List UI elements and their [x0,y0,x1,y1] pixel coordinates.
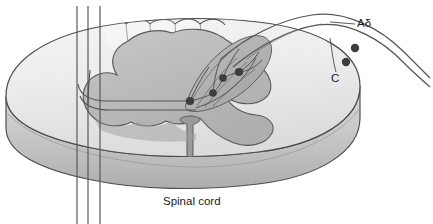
synapse-dot [186,97,194,105]
synapse-dot [209,89,217,97]
synapse-dot [235,68,243,76]
spinal-cord-label: Spinal cord [163,196,221,208]
c-fiber-label: C [331,73,339,85]
spinal-cord-diagram [0,0,433,224]
a-delta-leader [330,22,355,24]
peripheral-node-dot [351,44,359,52]
synapse-dot [219,74,227,82]
a-delta-label: Aδ [357,18,371,30]
peripheral-node-dot [342,58,350,66]
spinal-cord-figure: Aδ C Spinal cord [0,0,433,224]
